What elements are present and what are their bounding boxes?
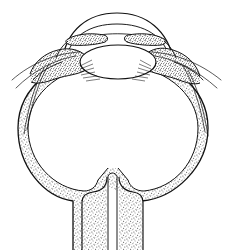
eye-diagram-svg: Cross-section of the human eye (sagittal… [0,0,233,250]
eye-cross-section-figure: Cross-section of the human eye (sagittal… [0,0,233,250]
